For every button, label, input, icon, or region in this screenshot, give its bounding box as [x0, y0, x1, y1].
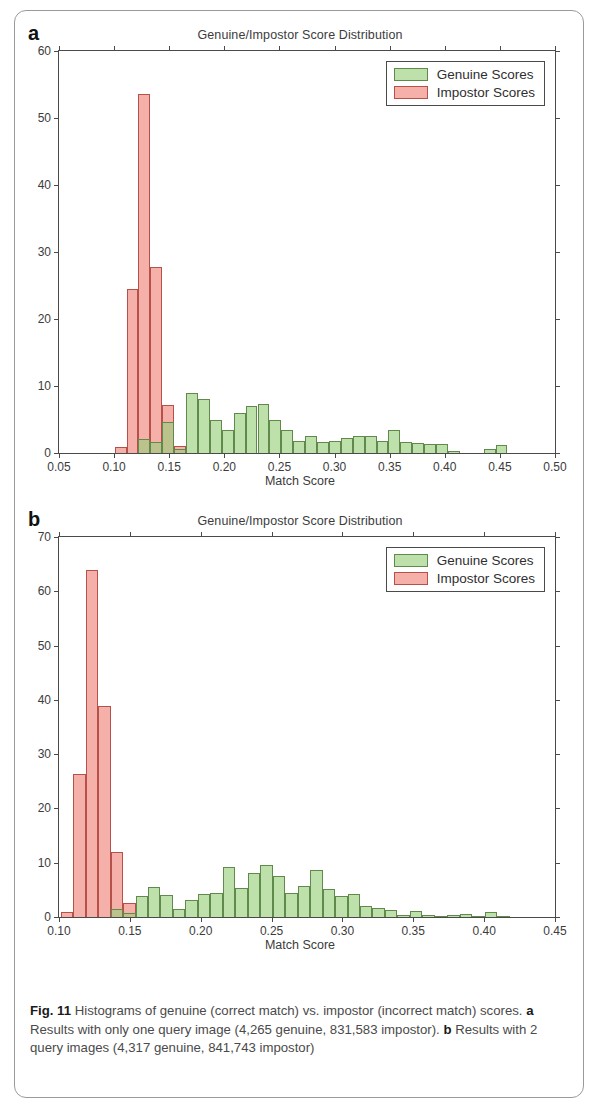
y-tick-mark [54, 754, 59, 755]
histogram-bar [497, 916, 509, 917]
x-tick-mark [342, 917, 343, 922]
y-tick-mark [54, 51, 59, 52]
histogram-bar [496, 445, 508, 453]
histogram-bar [273, 876, 285, 917]
histogram-bar [293, 441, 305, 453]
histogram-bar [412, 443, 424, 453]
x-tick-mark-top [390, 46, 391, 51]
histogram-bar [305, 436, 317, 453]
y-tick-mark-right [555, 51, 560, 52]
histogram-bar [198, 399, 210, 453]
x-tick-label: 0.05 [47, 460, 70, 474]
histogram-bar [185, 900, 197, 917]
y-tick-mark [54, 118, 59, 119]
histogram-bar [86, 570, 98, 917]
histogram-bar [136, 896, 148, 917]
histogram-bar [162, 422, 174, 453]
x-tick-mark [169, 453, 170, 458]
histogram-bar [353, 436, 365, 453]
x-tick-mark-top [335, 46, 336, 51]
x-tick-mark [114, 453, 115, 458]
y-tick-label: 70 [38, 530, 51, 544]
histogram-bar [269, 420, 281, 454]
histogram-bar [397, 915, 409, 917]
y-tick-label: 50 [38, 639, 51, 653]
y-tick-label: 20 [38, 312, 51, 326]
histogram-bar [150, 442, 162, 453]
histogram-bar [424, 444, 436, 453]
x-tick-label: 0.10 [102, 460, 125, 474]
y-tick-mark-right [555, 252, 560, 253]
y-tick-mark-right [555, 118, 560, 119]
x-tick-label: 0.30 [323, 460, 346, 474]
chart-b-title: Genuine/Impostor Score Distribution [24, 514, 576, 528]
y-tick-mark [54, 386, 59, 387]
histogram-bar [235, 888, 247, 917]
x-tick-mark-top [413, 532, 414, 537]
x-tick-label: 0.50 [543, 460, 566, 474]
histogram-bar [400, 442, 412, 453]
histogram-bar [448, 451, 460, 453]
y-tick-mark [54, 319, 59, 320]
chart-b-legend: Genuine Scores Impostor Scores [386, 547, 545, 592]
histogram-bar [460, 914, 472, 917]
y-tick-mark-right [555, 185, 560, 186]
legend-impostor-label: Impostor Scores [437, 571, 535, 586]
x-tick-mark-top [59, 532, 60, 537]
histogram-bar [447, 915, 459, 917]
y-tick-mark-right [555, 863, 560, 864]
histogram-bar [472, 916, 484, 917]
y-tick-mark [54, 646, 59, 647]
chart-a-plot-area: 01020304050600.050.100.150.200.250.300.3… [58, 50, 556, 454]
x-tick-mark [130, 917, 131, 922]
histogram-bar [138, 439, 150, 453]
chart-panel-b: b Genuine/Impostor Score Distribution 01… [24, 508, 576, 968]
y-tick-mark-right [555, 386, 560, 387]
y-tick-label: 40 [38, 693, 51, 707]
y-tick-mark [54, 252, 59, 253]
legend-impostor-label: Impostor Scores [437, 85, 535, 100]
y-tick-mark-right [555, 754, 560, 755]
x-tick-mark [335, 453, 336, 458]
x-tick-mark-top [272, 532, 273, 537]
x-tick-label: 0.40 [472, 924, 495, 938]
y-tick-label: 10 [38, 379, 51, 393]
y-tick-label: 30 [38, 747, 51, 761]
histogram-bar [435, 916, 447, 917]
chart-b-plot-area: 0102030405060700.100.150.200.250.300.350… [58, 536, 556, 918]
legend-genuine-label: Genuine Scores [437, 553, 534, 568]
x-tick-label: 0.25 [268, 460, 291, 474]
chart-b-bars [59, 537, 555, 917]
histogram-bar [410, 911, 422, 917]
y-tick-mark-right [555, 319, 560, 320]
y-tick-label: 0 [44, 910, 51, 924]
histogram-bar [329, 441, 341, 453]
histogram-bar [248, 873, 260, 918]
x-tick-mark-top [130, 532, 131, 537]
y-tick-label: 50 [38, 111, 51, 125]
chart-a-xaxis-title: Match Score [24, 474, 576, 488]
histogram-bar [150, 267, 162, 453]
impostor-swatch-icon [394, 86, 428, 99]
genuine-swatch-icon [394, 554, 428, 567]
x-tick-mark-top [555, 46, 556, 51]
histogram-bar [388, 430, 400, 453]
chart-b-xaxis-title: Match Score [24, 938, 576, 952]
y-tick-mark-right [555, 700, 560, 701]
x-tick-mark-top [484, 532, 485, 537]
x-tick-mark-top [555, 532, 556, 537]
histogram-bar [198, 894, 210, 917]
x-tick-mark [59, 917, 60, 922]
histogram-bar [485, 912, 497, 917]
x-tick-mark [224, 453, 225, 458]
x-tick-mark [484, 917, 485, 922]
x-tick-mark [413, 917, 414, 922]
y-tick-mark-right [555, 591, 560, 592]
y-tick-label: 20 [38, 801, 51, 815]
histogram-bar [298, 886, 310, 917]
y-tick-mark-right [555, 808, 560, 809]
caption-panel-a: Results with only one query image (4,265… [30, 1022, 440, 1037]
x-tick-mark [390, 453, 391, 458]
histogram-bar [210, 893, 222, 917]
genuine-swatch-icon [394, 68, 428, 81]
